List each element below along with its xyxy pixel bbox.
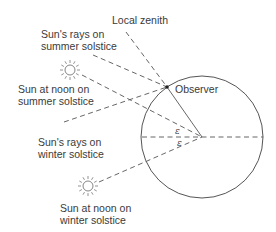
winter-sun-icon [78,176,98,196]
summer-noon-label-line1: Sun at noon on [18,83,89,95]
summer-sun-icon [60,60,80,80]
summer-rays-line [93,55,167,87]
winter-noon-label-line2: winter solstice [59,214,126,226]
summer-rays-label-line2: summer solstice [41,40,117,52]
winter-rays-label-line1: Sun's rays on [38,136,101,148]
winter-rays-label-line2: winter solstice [37,148,104,160]
solstice-diagram: Local zenith Sun's rays on summer solsti… [0,0,276,232]
summer-rays-label-line1: Sun's rays on [41,28,104,40]
summer-noon-label-line2: summer solstice [18,95,94,107]
winter-noon-label-line1: Sun at noon on [60,202,131,214]
local-zenith-line [126,32,167,87]
epsilon-upper-label: ε [175,126,180,136]
local-zenith-label: Local zenith [112,14,168,26]
observer-point [165,85,169,89]
observer-label: Observer [175,83,219,95]
epsilon-lower-label: ε [177,138,182,148]
winter-noon-line [99,137,202,182]
